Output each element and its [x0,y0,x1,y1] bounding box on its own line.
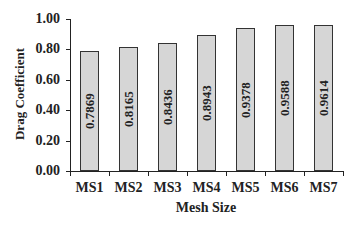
bar: 0.8436 [158,43,177,171]
y-tick-label: 0.20 [18,134,60,148]
y-axis [70,19,71,172]
y-tick [66,110,70,111]
bar: 0.9588 [275,25,294,171]
x-tick [109,171,110,176]
bar-value-label: 0.7869 [82,93,98,129]
bar: 0.8165 [119,47,138,171]
y-axis-label: Drag Coefficient [12,46,28,142]
y-tick-label: 0.00 [18,164,60,178]
x-axis [66,171,343,172]
x-tick [148,171,149,176]
x-tick [304,171,305,176]
bar: 0.9378 [236,28,255,171]
x-tick-label: MS1 [70,180,109,196]
y-tick-label: 0.80 [18,42,60,56]
x-tick-label: MS6 [265,180,304,196]
y-tick [66,80,70,81]
x-tick [187,171,188,176]
y-tick [66,19,70,20]
x-tick [343,171,344,176]
x-tick-label: MS5 [226,180,265,196]
bar: 0.9614 [314,25,333,171]
x-tick-label: MS4 [187,180,226,196]
y-tick-label: 1.00 [18,12,60,26]
y-tick [66,49,70,50]
bar-value-label: 0.8436 [160,89,176,125]
bar-value-label: 0.8165 [121,91,137,127]
bar-value-label: 0.9588 [277,80,293,116]
x-tick-label: MS2 [109,180,148,196]
x-tick [265,171,266,176]
bar-value-label: 0.9614 [316,80,332,116]
x-tick [70,171,71,176]
x-axis-label: Mesh Size [70,200,342,216]
x-tick-label: MS3 [148,180,187,196]
y-tick-label: 0.40 [18,103,60,117]
bar: 0.8943 [197,35,216,171]
y-tick [66,141,70,142]
bar-value-label: 0.9378 [238,82,254,118]
y-tick-label: 0.60 [18,73,60,87]
x-tick [226,171,227,176]
bar-value-label: 0.8943 [199,85,215,121]
x-tick-label: MS7 [304,180,343,196]
bar: 0.7869 [80,51,99,171]
